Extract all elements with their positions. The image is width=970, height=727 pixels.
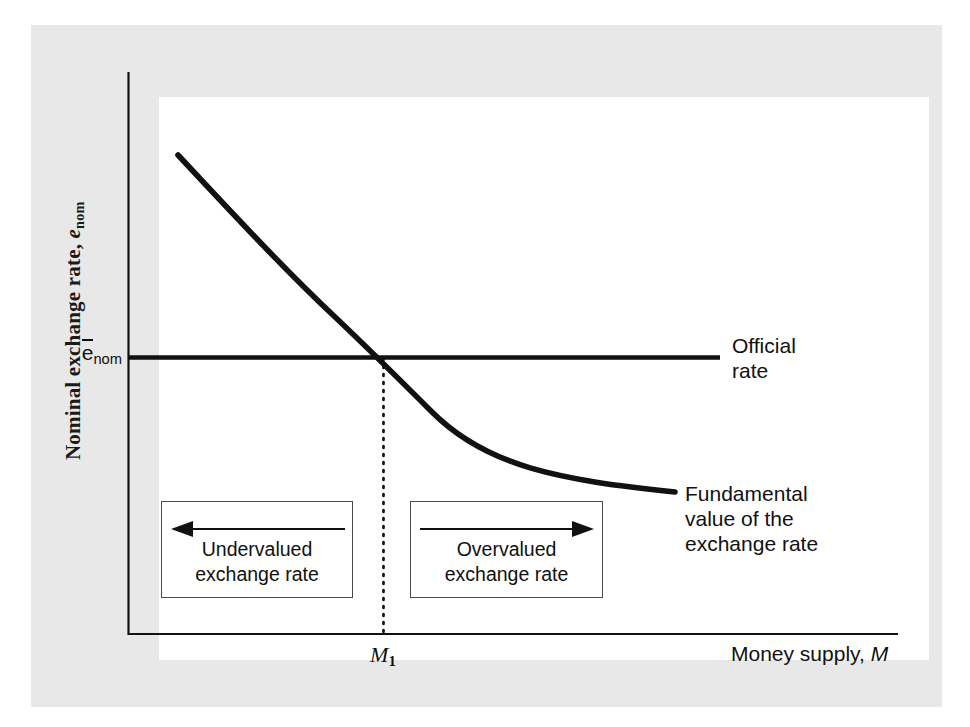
x-axis-title-symbol: M — [871, 642, 889, 665]
e-bar-symbol: e — [82, 341, 94, 365]
official-rate-label: Official rate — [732, 333, 796, 383]
e-bar-subscript: nom — [93, 351, 122, 367]
figure-panel — [31, 25, 942, 707]
undervalued-label: Undervalued exchange rate — [162, 537, 352, 587]
overvalued-callout-box: Overvalued exchange rate — [410, 501, 603, 598]
fundamental-value-label: Fundamental value of the exchange rate — [685, 481, 818, 556]
y-axis-title-subscript: nom — [71, 201, 87, 229]
m1-subscript: 1 — [388, 653, 395, 669]
x-axis-title-text: Money supply, — [731, 642, 871, 665]
x-axis-title: Money supply, M — [731, 642, 888, 666]
y-axis-title: Nominal exchange rate, enom — [58, 40, 88, 460]
m1-symbol: M — [370, 642, 388, 667]
x-axis-tick-label-m1: M1 — [355, 642, 411, 670]
y-axis-tick-label-official-rate: enom — [62, 341, 122, 367]
figure-root: Nominal exchange rate, enom enom M1 Mone… — [0, 0, 970, 727]
undervalued-callout-box: Undervalued exchange rate — [161, 501, 353, 598]
overvalued-label: Overvalued exchange rate — [411, 537, 602, 587]
y-axis-title-symbol: e — [61, 229, 85, 239]
